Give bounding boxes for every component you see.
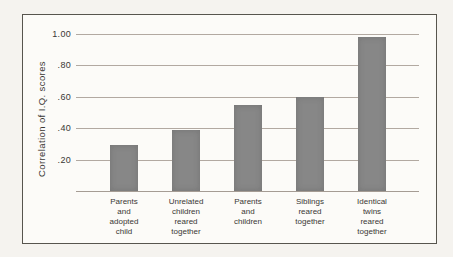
category-label: Identical twins reared together	[341, 197, 403, 237]
bar	[234, 105, 262, 191]
y-tick-label: 1.00	[23, 29, 71, 39]
bar	[172, 130, 200, 191]
bar-slot	[155, 34, 217, 191]
y-tick-label: .60	[23, 92, 71, 102]
bar-slot	[217, 34, 279, 191]
x-axis-line	[76, 191, 419, 192]
y-tick-label: .20	[23, 155, 71, 165]
bar	[110, 145, 138, 191]
category-label: Parents and children	[217, 197, 279, 237]
category-label: Siblings reared together	[279, 197, 341, 237]
category-label: Unrelated children reared together	[155, 197, 217, 237]
bar-series	[93, 34, 403, 191]
category-labels: Parents and adopted childUnrelated child…	[93, 197, 403, 237]
chart-frame: Correlation of I.Q. scores 1.00.80.60.40…	[22, 14, 437, 244]
bar	[358, 37, 386, 191]
bar-slot	[341, 34, 403, 191]
bar-slot	[93, 34, 155, 191]
y-tick-label: .80	[23, 60, 71, 70]
bar-slot	[279, 34, 341, 191]
category-label: Parents and adopted child	[93, 197, 155, 237]
bar	[296, 97, 324, 191]
y-tick-label: .40	[23, 123, 71, 133]
